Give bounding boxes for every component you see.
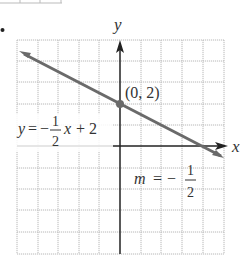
svg-text:m: m [134,170,146,187]
svg-text:1: 1 [52,114,59,129]
top-box-remnant [0,0,62,3]
y-axis-label: y [112,15,122,34]
svg-text:−: − [167,170,176,187]
equation-label: y = − 1 2 x + 2 [16,114,113,152]
bullet-dot [1,28,5,32]
svg-text:2: 2 [52,134,59,149]
y-intercept-point [116,100,124,108]
svg-text:+ 2: + 2 [76,120,97,137]
svg-text:2: 2 [187,185,194,200]
svg-text:1: 1 [187,163,194,178]
coordinate-graph: y x (0, 2) y = − 1 2 x + 2 m = − 1 2 [0,0,243,262]
svg-text:=: = [28,120,37,137]
x-axis-label: x [231,137,240,156]
svg-text:−: − [40,120,49,137]
point-label: (0, 2) [125,84,160,102]
svg-text:y: y [16,120,26,138]
svg-text:x: x [63,120,71,137]
slope-label: m = − 1 2 [134,163,196,200]
svg-text:=: = [153,170,162,187]
